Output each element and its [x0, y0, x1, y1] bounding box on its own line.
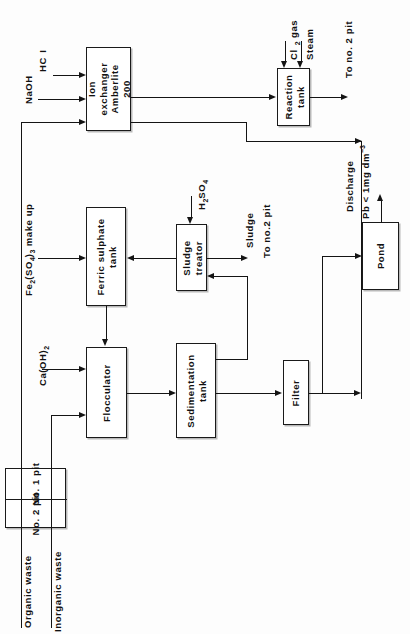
connector-junction-riser	[322, 256, 323, 393]
arrowhead-flocculator-top-inlet	[102, 339, 108, 346]
connector-riser-to-filter-junction	[361, 141, 362, 399]
label-sulphuric-acid: H2SO4	[196, 180, 211, 210]
connector-long-run-right	[246, 141, 362, 142]
arrowhead-ferric-tank-inlet	[127, 255, 134, 261]
node-reaction-tank-label: Reactiontank	[282, 69, 305, 125]
arrowhead-filter-out	[354, 390, 361, 396]
arrowhead-ferric-makeup	[79, 255, 86, 261]
label-ferric-sulphate-makeup: Fe2(SO4)3 make up	[23, 204, 38, 296]
connector-step-down	[246, 122, 247, 142]
connector-riser-to-ion-exchanger	[21, 122, 79, 123]
connector-filter-out	[309, 393, 354, 394]
connector-ferric-makeup	[38, 258, 79, 259]
label-discharge-line1: Discharge	[344, 161, 357, 212]
connector-organic-waste-feed	[21, 528, 22, 628]
node-filter-label: Filter	[290, 362, 302, 424]
label-calcium-hydroxide: Ca(OH)2	[37, 346, 52, 386]
label-sludge: Sludge	[244, 213, 256, 248]
arrowhead-chlorine-gas	[281, 61, 287, 68]
node-ion-exchanger-label: IonexchangerAmberlite200	[86, 48, 132, 130]
arrowhead-pond-discharge	[377, 194, 383, 201]
node-ferric-sulphate-tank-label: Ferric sulphatetank	[95, 209, 118, 305]
connector-chlorine-gas	[285, 41, 286, 61]
connector-calcium-hydroxide	[42, 369, 79, 370]
connector-inorganic-waste-feed	[51, 528, 52, 628]
connector-pit2-riser	[51, 415, 52, 528]
connector-flocculator-to-sedimentation	[127, 393, 169, 394]
arrowhead-sludge-treator-return	[207, 273, 214, 279]
node-flocculator[interactable]: Flocculator	[86, 347, 127, 438]
connector-ion-exchanger-to-reaction-tank	[131, 97, 269, 98]
node-sedimentation-tank[interactable]: Sedimentationtank	[176, 343, 216, 438]
label-naoh: NaOH	[23, 75, 35, 104]
connector-sedimentation-to-filter	[216, 393, 275, 394]
node-ion-exchanger[interactable]: IonexchangerAmberlite200	[86, 47, 131, 131]
label-steam: Steam	[304, 28, 316, 60]
arrowhead-reaction-tank-out	[341, 94, 348, 100]
arrowhead-reaction-tank-inlet	[269, 94, 276, 100]
label-discharge-line2: Pb < 1mg dm−3	[357, 145, 373, 219]
connector-pit2-to-flocculator	[51, 415, 79, 416]
node-reaction-tank[interactable]: Reactiontank	[277, 68, 310, 126]
connector-sedimentation-to-sludge-treator-b	[247, 276, 248, 360]
label-hcl: HC I	[37, 49, 49, 72]
arrowhead-ion-exchanger-inlet	[79, 119, 86, 125]
connector-junction-to-pond	[322, 256, 355, 257]
connector-sedimentation-to-sludge-treator-c	[214, 276, 248, 277]
connector-sludge-out	[207, 258, 241, 259]
arrowhead-sludge-out	[241, 255, 248, 261]
label-organic-waste: Organic waste	[22, 555, 34, 628]
node-sludge-treator[interactable]: Sludgetreator	[176, 224, 207, 291]
flow-diagram-canvas: IonexchangerAmberlite200 Reactiontank Fe…	[0, 0, 410, 634]
connector-hcl	[53, 75, 79, 76]
arrowhead-filter-inlet	[275, 390, 282, 396]
arrowhead-hcl	[79, 72, 86, 78]
arrowhead-naoh	[79, 96, 86, 102]
node-ferric-sulphate-tank[interactable]: Ferric sulphatetank	[86, 207, 126, 306]
arrowhead-sulphuric-acid	[187, 217, 193, 224]
node-pond[interactable]: Pond	[362, 222, 399, 290]
connector-sedimentation-to-sludge-treator-a	[216, 359, 248, 360]
connector-ferric-tank-to-flocculator	[106, 306, 107, 339]
connector-sulphuric-acid	[191, 196, 192, 217]
connector-naoh	[38, 99, 79, 100]
label-sludge-to-pit: To no.2 pit	[261, 204, 273, 258]
connector-ion-exchanger-lower-out	[131, 122, 247, 123]
arrowhead-sedimentation-inlet	[169, 390, 176, 396]
arrowhead-calcium-hydroxide	[79, 366, 86, 372]
node-flocculator-label: Flocculator	[101, 349, 113, 437]
connector-steam	[301, 41, 302, 61]
label-inorganic-waste: Inorganic waste	[52, 551, 64, 632]
node-sedimentation-tank-label: Sedimentationtank	[185, 345, 208, 437]
label-reaction-tank-output: To no. 2 pit	[343, 21, 355, 78]
connector-reaction-tank-out	[310, 97, 341, 98]
node-pit-no-2-label: No. 2 pit	[30, 485, 42, 543]
arrowhead-steam	[297, 61, 303, 68]
connector-sludge-treator-to-ferric-tank	[134, 258, 176, 259]
arrowhead-pond-inlet	[355, 253, 362, 259]
node-pond-label: Pond	[375, 224, 387, 288]
node-sludge-treator-label: Sludgetreator	[180, 226, 203, 290]
connector-pond-discharge	[381, 201, 382, 223]
arrowhead-flocculator-lower-inlet	[79, 412, 86, 418]
node-filter[interactable]: Filter	[283, 360, 309, 425]
node-waste-pits[interactable]: No. 1 pit No. 2 pit	[5, 468, 66, 528]
